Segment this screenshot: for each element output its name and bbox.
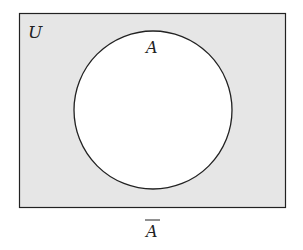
complement-label: A bbox=[144, 222, 158, 241]
universe-label: U bbox=[28, 22, 43, 42]
venn-diagram: U A A bbox=[0, 0, 303, 250]
set-a-label: A bbox=[144, 38, 158, 57]
